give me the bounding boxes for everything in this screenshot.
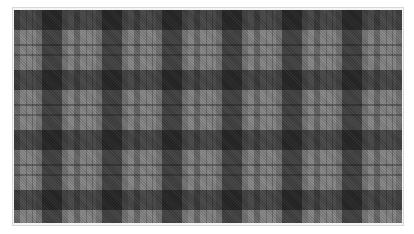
plaid-fabric-image <box>14 10 402 223</box>
